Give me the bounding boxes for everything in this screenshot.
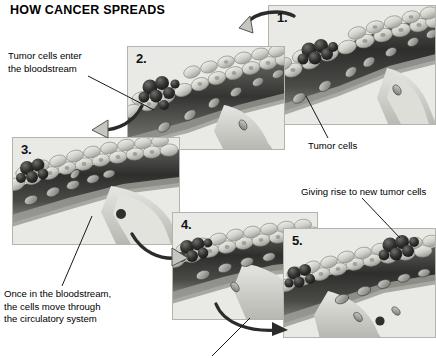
caption-tumor-cells: Tumor cells bbox=[308, 140, 357, 153]
caption-once-in-bloodstream: Once in the bloodstream, the cells move … bbox=[4, 288, 154, 326]
caption-bottom-clipped bbox=[118, 350, 358, 358]
panel-3[interactable]: 3. bbox=[12, 137, 180, 245]
panel-3-artwork bbox=[13, 138, 179, 244]
panel-3-number: 3. bbox=[21, 142, 31, 157]
illustration-canvas: HOW CANCER SPREADS bbox=[0, 0, 436, 358]
panel-2-artwork bbox=[128, 47, 284, 149]
panel-4-number: 4. bbox=[181, 217, 191, 232]
panel-5-artwork bbox=[284, 229, 435, 337]
caption-giving-rise: Giving rise to new tumor cells bbox=[301, 186, 426, 199]
page-title: HOW CANCER SPREADS bbox=[10, 3, 165, 17]
panel-1-number: 1. bbox=[277, 10, 287, 25]
caption-tumor-cells-enter: Tumor cells enter the bloodstream bbox=[8, 50, 120, 75]
panel-1[interactable]: 1. bbox=[268, 5, 436, 125]
panel-1-artwork bbox=[269, 6, 435, 124]
panel-5[interactable]: 5. bbox=[283, 228, 436, 338]
panel-2-number: 2. bbox=[136, 51, 146, 66]
panel-2[interactable]: 2. bbox=[127, 46, 285, 150]
panel-5-number: 5. bbox=[292, 233, 302, 248]
